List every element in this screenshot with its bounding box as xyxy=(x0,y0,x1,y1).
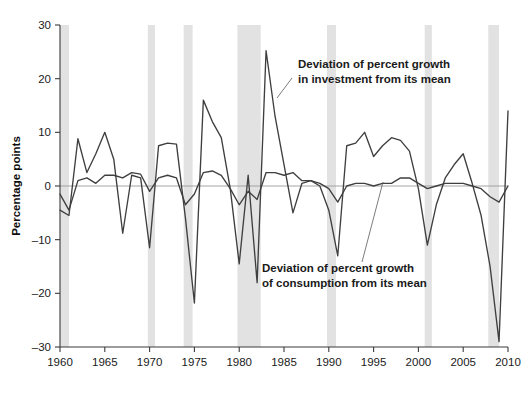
chart-canvas: –30–20–100102030196019651970197519801985… xyxy=(0,0,522,395)
x-tick-label-1990: 1990 xyxy=(316,356,342,368)
x-tick-label-1970: 1970 xyxy=(137,356,163,368)
y-tick-label--20: –20 xyxy=(32,287,51,299)
consumption-annotation-line2: of consumption from its mean xyxy=(262,277,427,289)
y-axis-title: Percentage points xyxy=(10,136,22,236)
x-tick-label-1975: 1975 xyxy=(182,356,208,368)
y-tick-label-20: 20 xyxy=(38,73,51,85)
y-tick-label-10: 10 xyxy=(38,126,51,138)
consumption-annotation-line1: Deviation of percent growth xyxy=(262,262,414,274)
x-tick-label-2010: 2010 xyxy=(495,356,521,368)
y-tick-label--30: –30 xyxy=(32,341,51,353)
y-tick-label--10: –10 xyxy=(32,234,51,246)
y-tick-label-30: 30 xyxy=(38,19,51,31)
x-tick-label-1965: 1965 xyxy=(92,356,118,368)
deviation-from-mean-line-chart: –30–20–100102030196019651970197519801985… xyxy=(0,0,522,395)
x-tick-label-1960: 1960 xyxy=(47,356,73,368)
x-tick-label-2000: 2000 xyxy=(406,356,432,368)
x-tick-label-1980: 1980 xyxy=(226,356,252,368)
y-tick-label-0: 0 xyxy=(45,180,51,192)
x-tick-label-1995: 1995 xyxy=(361,356,387,368)
x-tick-label-2005: 2005 xyxy=(450,356,476,368)
investment-annotation-line1: Deviation of percent growth xyxy=(298,58,450,70)
x-tick-label-1985: 1985 xyxy=(271,356,297,368)
y-axis-title-text: Percentage points xyxy=(10,136,22,236)
investment-annotation-line2: in investment from its mean xyxy=(298,73,451,85)
